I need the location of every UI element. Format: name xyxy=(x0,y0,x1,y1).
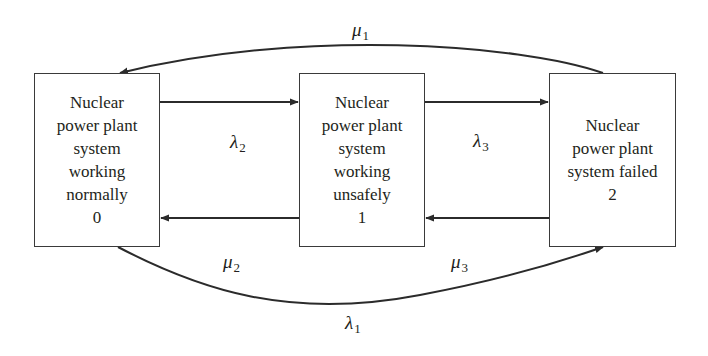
state-0-line-2: power plant xyxy=(57,114,138,137)
state-transition-diagram: Nuclear power plant system working norma… xyxy=(0,0,708,356)
state-1-id: 1 xyxy=(358,206,367,229)
rate-label-mu1: μ1 xyxy=(352,20,369,42)
state-box-0: Nuclear power plant system working norma… xyxy=(34,73,160,247)
state-0-line-5: normally xyxy=(66,183,127,206)
state-box-2: Nuclear power plant system failed 2 xyxy=(549,73,676,247)
state-1-line-3: system xyxy=(338,137,385,160)
state-1-line-1: Nuclear xyxy=(335,91,389,114)
state-0-line-3: system xyxy=(73,137,120,160)
state-1-line-5: unsafely xyxy=(333,183,391,206)
state-2-id: 2 xyxy=(608,183,617,206)
rate-label-mu2: μ2 xyxy=(223,252,240,274)
rate-label-lambda1: λ1 xyxy=(345,313,361,335)
rate-label-mu3: μ3 xyxy=(451,252,468,274)
state-0-line-1: Nuclear xyxy=(70,91,124,114)
arrow-2-to-0 xyxy=(120,45,603,73)
rate-label-lambda2: λ2 xyxy=(230,132,246,154)
arrow-0-to-2 xyxy=(118,247,603,304)
state-0-line-4: working xyxy=(69,160,126,183)
state-0-id: 0 xyxy=(93,206,102,229)
state-2-line-3: system failed xyxy=(567,160,657,183)
state-1-line-2: power plant xyxy=(322,114,403,137)
state-2-line-2: power plant xyxy=(572,137,653,160)
state-1-line-4: working xyxy=(334,160,391,183)
state-box-1: Nuclear power plant system working unsaf… xyxy=(299,73,425,247)
state-2-line-1: Nuclear xyxy=(586,114,640,137)
rate-label-lambda3: λ3 xyxy=(473,131,489,153)
